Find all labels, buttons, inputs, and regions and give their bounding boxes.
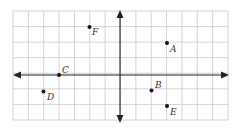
point-c-label: C — [62, 65, 69, 75]
point-f-dot — [88, 25, 92, 29]
point-c-dot — [57, 73, 61, 77]
point-e-label: E — [169, 107, 177, 117]
point-a-label: A — [169, 44, 177, 54]
y-axis-down-arrow-icon — [117, 115, 124, 123]
point-d-dot — [42, 90, 46, 94]
points: A B C D E F — [42, 25, 178, 117]
point-e-dot — [165, 104, 169, 108]
point-b-label: B — [154, 80, 162, 90]
point-f-label: F — [91, 27, 99, 37]
point-d-label: D — [46, 92, 54, 102]
point-b-dot — [150, 89, 154, 93]
x-axis-left-arrow-icon — [13, 72, 21, 79]
point-a-dot — [165, 41, 169, 45]
coordinate-plane: A B C D E F — [0, 0, 240, 128]
point-f: F — [88, 25, 100, 37]
